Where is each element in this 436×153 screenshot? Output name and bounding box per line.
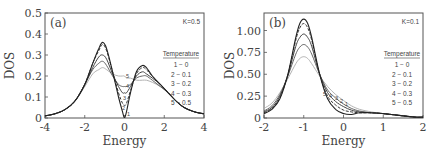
panel-label: (b) [269, 16, 286, 30]
legend-entry: 4 − 0.3 [392, 90, 412, 97]
legend-entry: 4 − 0.3 [171, 90, 191, 97]
x-axis-label: Energy [322, 134, 366, 148]
y-tick-label: 0.5 [25, 7, 43, 20]
legend-entry: 2 − 0.1 [392, 71, 412, 78]
legend-title: Temperature [163, 50, 200, 58]
curve-number-label: 3 [123, 95, 126, 101]
chart-panel-a: 00.10.20.30.40.5-4-2024EnergyDOS(a)K=0.5… [0, 0, 218, 153]
x-tick-label: 1 [380, 121, 387, 134]
panel-label: (a) [50, 16, 67, 30]
y-axis-label: DOS [3, 52, 17, 80]
y-tick-label: 0.75 [237, 46, 262, 59]
x-tick-label: -2 [79, 121, 90, 134]
curve-number-label: 5 [323, 91, 326, 97]
k-annotation: K=0.5 [183, 18, 201, 25]
x-tick-label: 2 [420, 121, 427, 134]
x-tick-label: 0 [121, 121, 128, 134]
legend-entry: 3 − 0.2 [392, 80, 412, 87]
legend-entry: 3 − 0.2 [171, 80, 191, 87]
y-tick-label: 0.50 [237, 68, 262, 81]
legend-entry: 5 − 0.5 [392, 99, 412, 106]
k-annotation: K=0.1 [402, 18, 420, 25]
y-tick-label: 0.25 [237, 90, 262, 103]
x-tick-label: 0 [340, 121, 347, 134]
curve-number-label: 3 [335, 95, 338, 101]
y-tick-label: 0.4 [25, 28, 43, 41]
x-tick-label: -2 [259, 121, 270, 134]
legend-entry: 1 − 0 [174, 61, 189, 68]
legend-entry: 5 − 0.5 [171, 99, 191, 106]
chart-b-plot: 00.250.500.751.00-2-1012EnergyDOS(b)K=0.… [218, 0, 436, 153]
curve-number-label: 2 [122, 105, 125, 111]
curve-number-label: 1 [345, 101, 348, 107]
y-tick-label: 0.2 [25, 70, 43, 83]
legend-entry: 1 − 0 [395, 61, 410, 68]
curve-number-label: 5 [126, 73, 129, 79]
chart-a-plot: 00.10.20.30.40.5-4-2024EnergyDOS(a)K=0.5… [0, 0, 218, 153]
x-tick-label: 2 [161, 121, 168, 134]
x-tick-label: 4 [201, 121, 208, 134]
y-tick-label: 0.3 [25, 49, 43, 62]
x-tick-label: -1 [298, 121, 309, 134]
x-axis-label: Energy [103, 134, 147, 148]
y-tick-label: 0.1 [25, 91, 43, 104]
y-tick-label: 1.00 [237, 25, 262, 38]
legend-entry: 2 − 0.1 [171, 71, 191, 78]
curve-number-label: 2 [340, 98, 343, 104]
chart-panel-b: 00.250.500.751.00-2-1012EnergyDOS(b)K=0.… [218, 0, 436, 153]
curve-number-label: 1 [127, 111, 130, 117]
y-axis-label: DOS [223, 52, 237, 80]
legend-title: Temperature [384, 50, 421, 58]
curve-number-label: 4 [329, 93, 332, 99]
curve-number-label: 4 [126, 83, 129, 89]
x-tick-label: -4 [40, 121, 51, 134]
